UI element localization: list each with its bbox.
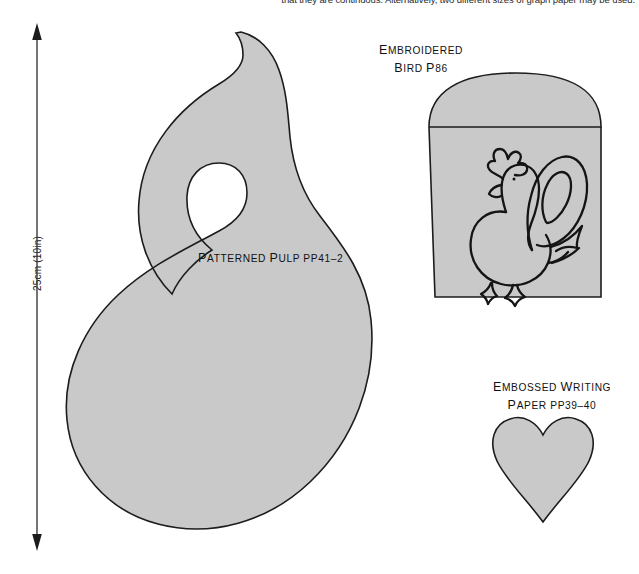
template-shape-heart <box>493 418 593 522</box>
caption-page-prefix: PP <box>303 253 318 264</box>
caption-text-2: ULP <box>278 253 303 264</box>
caption-cap-letter: E <box>379 43 388 57</box>
templates-artwork <box>0 0 639 574</box>
caption-line-1: EMBROIDERED <box>360 41 482 59</box>
caption-page-number: 41–2 <box>318 253 343 264</box>
caption-page-prefix: PP <box>550 400 565 411</box>
caption-text: APER <box>517 400 551 411</box>
caption-cap-letter: P <box>508 398 517 412</box>
caption-page-prefix: P <box>426 61 435 75</box>
caption-cap-letter-2: W <box>561 380 574 394</box>
caption-line-2: BIRD P86 <box>360 59 482 77</box>
caption-text: IRD <box>403 63 426 74</box>
caption-text: ATTERNED <box>207 253 269 264</box>
caption-embossed-writing-paper: EMBOSSED WRITING PAPER PP39–40 <box>489 378 615 414</box>
caption-line-2: PAPER PP39–40 <box>489 396 615 414</box>
caption-page-number: 86 <box>435 63 448 74</box>
caption-patterned-pulp: PATTERNED PULP PP41–2 <box>198 249 343 267</box>
caption-text: MBOSSED <box>502 382 561 393</box>
caption-text-2: RITING <box>573 382 611 393</box>
template-shape-patterned-pulp <box>66 32 372 529</box>
caption-page-number: 39–40 <box>565 400 596 411</box>
caption-cap-letter: E <box>493 380 502 394</box>
caption-line-1: PATTERNED PULP PP41–2 <box>198 249 343 267</box>
caption-cap-letter: B <box>394 61 403 75</box>
caption-cap-letter: P <box>198 251 207 265</box>
caption-line-1: EMBOSSED WRITING <box>489 378 615 396</box>
caption-embroidered-bird: EMBROIDERED BIRD P86 <box>360 41 482 77</box>
template-shape-embroidered-bird <box>429 73 601 297</box>
caption-text: MBROIDERED <box>388 45 463 56</box>
template-page: that they are continuous. Alternatively,… <box>0 0 639 574</box>
bird-eye-dot <box>513 178 516 181</box>
scale-arrow <box>32 23 42 551</box>
